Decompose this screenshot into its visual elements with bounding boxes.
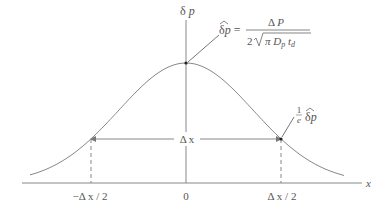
peak-leader-line: [188, 35, 219, 62]
svg-text:Δ P: Δ P: [268, 16, 284, 28]
tick-neg-half-dx: −Δ x / 2: [73, 190, 108, 202]
svg-text:π Dp td: π Dp td: [265, 35, 296, 49]
svg-text:e: e: [297, 115, 301, 125]
y-axis-label: δ p: [180, 4, 195, 18]
svg-text:2: 2: [247, 35, 253, 47]
half-width-point: [279, 137, 282, 140]
peak-formula: δp = Δ P 2 π Dp td: [219, 16, 311, 49]
gaussian-diagram: Δ x δ p δp = Δ P 2 π Dp td 1 e δp −Δ x /…: [0, 0, 386, 211]
e-fraction-annotation: 1 e δp: [296, 105, 317, 125]
svg-text:δp: δp: [305, 110, 317, 124]
tick-zero: 0: [183, 190, 189, 202]
x-axis-label: x: [365, 177, 371, 189]
e-leader-line: [282, 117, 294, 137]
peak-point: [184, 61, 187, 64]
tick-pos-half-dx: Δ x / 2: [268, 190, 297, 202]
svg-text:δp =: δp =: [219, 23, 241, 37]
svg-text:1: 1: [297, 105, 302, 115]
delta-x-label: Δ x: [180, 133, 195, 145]
